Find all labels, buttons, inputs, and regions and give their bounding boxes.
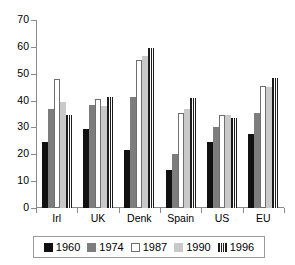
bar-group [201, 20, 242, 208]
legend-label-1987: 1987 [143, 241, 167, 254]
legend-item-1960[interactable]: 1960 [44, 241, 80, 254]
legend-swatch-1960 [44, 243, 53, 252]
y-axis-tick-label: 50 [17, 67, 29, 80]
bar-group [119, 20, 160, 208]
y-axis-tick-label: 30 [17, 120, 29, 133]
bar-irl-1996 [66, 115, 72, 208]
x-axis-label-denk: Denk [119, 212, 160, 225]
legend-item-1996[interactable]: 1996 [218, 241, 254, 254]
legend-swatch-1996 [218, 243, 227, 252]
y-axis-tick-label: 70 [17, 13, 29, 26]
y-axis-tick-label: 10 [17, 174, 29, 187]
y-axis-tick-label: 60 [17, 40, 29, 53]
x-axis-label-us: US [201, 212, 242, 225]
x-axis-label-irl: Irl [36, 212, 77, 225]
bar-spain-1996 [190, 98, 196, 208]
y-axis-tick-label: 40 [17, 94, 29, 107]
legend-swatch-1987 [131, 243, 140, 252]
x-axis-label-spain: Spain [160, 212, 201, 225]
plot-area: 010203040506070 [36, 20, 284, 208]
legend-swatch-1990 [174, 243, 183, 252]
chart-legend: 19601974198719901996 [33, 236, 265, 258]
bar-us-1996 [231, 118, 237, 208]
y-axis-tick-label: 20 [17, 147, 29, 160]
y-axis-tick-label: 0 [23, 201, 29, 214]
bar-uk-1996 [107, 97, 113, 208]
legend-label-1974: 1974 [99, 241, 123, 254]
bar-group [36, 20, 77, 208]
legend-item-1987[interactable]: 1987 [131, 241, 167, 254]
legend-item-1990[interactable]: 1990 [174, 241, 210, 254]
bar-eu-1996 [272, 78, 278, 208]
legend-swatch-1974 [87, 243, 96, 252]
x-axis-label-eu: EU [243, 212, 284, 225]
legend-item-1974[interactable]: 1974 [87, 241, 123, 254]
bar-group [243, 20, 284, 208]
bar-chart: 010203040506070 IrlUKDenkSpainUSEU 19601… [0, 0, 295, 265]
legend-label-1960: 1960 [56, 241, 80, 254]
x-axis-tick [284, 208, 285, 213]
bar-group [77, 20, 118, 208]
bar-denk-1996 [148, 48, 154, 208]
bar-group [160, 20, 201, 208]
x-axis-label-uk: UK [77, 212, 118, 225]
legend-label-1990: 1990 [186, 241, 210, 254]
legend-label-1996: 1996 [230, 241, 254, 254]
